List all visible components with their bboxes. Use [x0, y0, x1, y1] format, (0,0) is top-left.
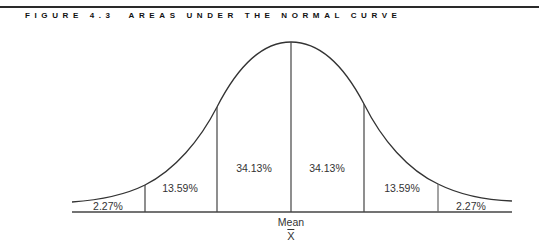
region-label-right-tail: 2.27% — [456, 200, 486, 212]
region-label-right-inner: 34.13% — [309, 162, 345, 174]
region-label-left-outer: 13.59% — [162, 182, 198, 194]
region-label-left-inner: 34.13% — [236, 162, 272, 174]
region-label-left-tail: 2.27% — [93, 200, 123, 212]
region-label-right-outer: 13.59% — [384, 182, 420, 194]
mean-symbol: X — [287, 229, 294, 242]
mean-label: Mean — [278, 216, 304, 228]
normal-curve — [72, 42, 512, 202]
